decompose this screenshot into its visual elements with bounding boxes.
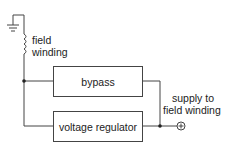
ground-icon — [7, 15, 19, 31]
coil-icon — [24, 34, 26, 54]
junction-dot-left — [22, 79, 26, 83]
bypass-label: bypass — [81, 76, 114, 88]
supply-label-line1: supply to — [172, 93, 214, 104]
junction-dot-right — [158, 124, 162, 128]
supply-label-line2: field winding — [163, 105, 221, 116]
voltage-regulator-block: voltage regulator — [53, 111, 143, 142]
field-winding-label-line1: field — [32, 35, 51, 46]
field-winding-label-line2: winding — [32, 47, 68, 58]
plus-terminal-icon — [177, 122, 185, 130]
voltage-regulator-label: voltage regulator — [59, 121, 137, 133]
bypass-block: bypass — [53, 66, 143, 97]
